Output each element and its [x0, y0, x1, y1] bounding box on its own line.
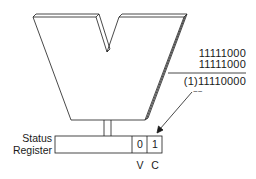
carry-flag-label: C	[148, 160, 162, 171]
alu-to-register-bus	[104, 120, 111, 136]
carry-flag-value: 1	[148, 139, 162, 150]
overflow-flag-value: 0	[133, 139, 147, 150]
overflow-flag-label: V	[133, 160, 147, 171]
status-register-label-line-1: Status	[22, 133, 52, 144]
alu-block	[33, 14, 187, 120]
carry-marker: ~~	[193, 86, 202, 97]
operand-2: 11111000	[199, 59, 246, 70]
status-register-label-line-2: Register	[13, 145, 52, 156]
carry-arrow	[157, 92, 192, 133]
